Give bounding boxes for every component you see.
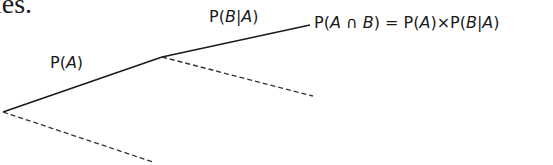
label-joint-probability: P(A ∩ B) = P(A)×P(B|A): [314, 13, 500, 32]
branch-root-to-notA: [3, 112, 153, 162]
branch-A-to-notB: [162, 57, 313, 96]
label-prob-B-given-A: P(B|A): [209, 7, 258, 26]
label-prob-A: P(A): [50, 53, 83, 72]
branch-A-to-B: [162, 25, 310, 57]
